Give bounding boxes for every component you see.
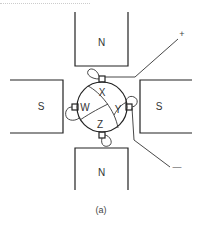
pole-left: S <box>10 80 63 133</box>
pole-left-outline <box>10 80 63 133</box>
pole-bottom: N <box>75 148 128 190</box>
segment-z-label: Z <box>97 119 103 130</box>
negative-terminal-label: — <box>173 162 182 172</box>
rotor: X Y Z W <box>77 82 127 132</box>
pole-right-label: S <box>156 101 163 112</box>
segment-y-label: Y <box>115 104 122 115</box>
positive-lead <box>105 39 178 77</box>
segment-x-label: X <box>99 87 106 98</box>
negative-lead <box>132 108 170 167</box>
segment-w-label: W <box>80 102 90 113</box>
loop-top <box>88 69 99 79</box>
brush-bottom <box>99 132 105 138</box>
pole-right: S <box>140 80 192 133</box>
pole-top-label: N <box>98 37 105 48</box>
pole-right-outline <box>140 80 192 133</box>
brush-top <box>99 76 105 82</box>
pole-left-label: S <box>38 101 45 112</box>
loop-bottom <box>102 135 112 146</box>
pole-top: N <box>75 12 128 66</box>
leads: + — <box>105 29 185 172</box>
dc-motor-diagram: N N S S X Y Z W <box>0 0 202 226</box>
pole-bottom-label: N <box>98 167 105 178</box>
positive-terminal-label: + <box>179 29 184 39</box>
figure-caption: (a) <box>96 205 107 215</box>
